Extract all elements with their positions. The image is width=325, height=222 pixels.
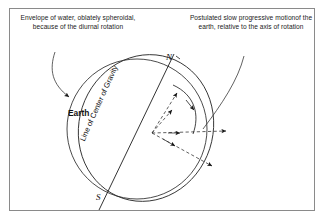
caption-postulated-motion: Postulated slow progressive motionof the… [188,14,314,31]
dashed-ray-3 [152,131,226,133]
north-pole-label: N [166,52,172,62]
ray-mid-arrow-4 [163,139,175,146]
south-pole-label: S [96,192,101,202]
right-caption-leader [203,56,244,129]
ray-mid-arrow-group [163,133,180,146]
dashed-ray-1 [152,93,177,133]
dashed-ray-2 [152,110,172,133]
left-caption-leader [52,52,69,97]
rotation-arc [173,85,196,134]
dashed-ray-4 [152,133,212,166]
north-pole-tick [176,56,180,59]
caption-water-envelope: Envelope of water, oblately spheroidal, … [16,14,140,31]
rotation-arc-arrow [186,100,194,110]
earth-label: Earth [68,108,89,118]
diagram-figure: Envelope of water, oblately spheroidal, … [0,0,325,222]
diagram-canvas [0,0,325,222]
